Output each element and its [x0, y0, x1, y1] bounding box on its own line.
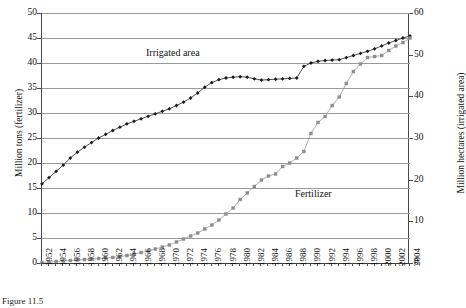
right-axis-tick-label: 10 — [414, 216, 454, 226]
data-point-marker — [274, 172, 277, 175]
data-point-marker — [295, 76, 299, 80]
data-point-marker — [168, 243, 171, 246]
data-point-marker — [153, 112, 157, 116]
data-point-marker — [394, 44, 397, 47]
x-axis-tick-label: 1964 — [129, 248, 138, 266]
data-point-marker — [288, 77, 292, 81]
data-point-marker — [401, 41, 404, 44]
data-point-marker — [224, 212, 227, 215]
data-point-marker — [323, 115, 326, 118]
data-point-marker — [373, 47, 377, 51]
data-point-marker — [366, 49, 370, 53]
x-axis-tick-label: 1994 — [342, 248, 351, 266]
data-point-marker — [338, 95, 341, 98]
data-point-marker — [175, 104, 179, 108]
x-axis-tick-label: 1954 — [59, 248, 68, 266]
data-point-marker — [189, 234, 192, 237]
data-point-marker — [387, 49, 390, 52]
x-axis-tick-label: 1982 — [257, 248, 266, 266]
data-point-marker — [323, 59, 327, 63]
data-point-marker — [387, 41, 391, 45]
data-point-marker — [352, 70, 355, 73]
data-point-marker — [394, 39, 398, 43]
data-point-marker — [267, 78, 271, 82]
data-point-marker — [231, 75, 235, 79]
x-axis-tick-label: 1978 — [229, 248, 238, 266]
left-axis-tick-label: 5 — [0, 233, 37, 243]
x-axis-tick-label: 1968 — [158, 248, 167, 266]
data-point-marker — [111, 129, 115, 133]
left-axis-tick-label: 50 — [0, 8, 37, 18]
data-point-marker — [316, 59, 320, 63]
x-axis-tick-label: 1990 — [313, 248, 322, 266]
x-axis-tick-label: 2002 — [398, 248, 407, 266]
data-point-marker — [217, 218, 220, 221]
data-point-marker — [246, 191, 249, 194]
data-point-marker — [196, 231, 199, 234]
data-point-marker — [309, 61, 313, 65]
data-point-marker — [330, 58, 334, 62]
data-point-marker — [132, 119, 136, 123]
series-label-irrigated-area: Irrigated area — [146, 47, 200, 58]
x-axis-tick-label: 1960 — [101, 248, 110, 266]
left-axis-title: Million tons (fertilizer) — [14, 53, 24, 213]
data-point-marker — [182, 100, 186, 104]
data-point-marker — [146, 114, 150, 118]
figure-caption: Figure 11.5 — [2, 296, 152, 306]
x-axis-tick-label: 1962 — [115, 248, 124, 266]
data-point-marker — [302, 64, 306, 68]
data-point-marker — [288, 161, 291, 164]
x-axis-tick-label: 1966 — [144, 248, 153, 266]
right-axis-tick-label: 50 — [414, 50, 454, 60]
left-axis-tick-label: 0 — [0, 258, 37, 268]
data-point-marker — [359, 62, 362, 65]
data-point-marker — [267, 174, 270, 177]
data-point-marker — [337, 58, 341, 62]
x-axis-tick-label: 1996 — [356, 248, 365, 266]
data-point-marker — [345, 82, 348, 85]
data-point-marker — [182, 237, 185, 240]
x-axis-tick-label: 1976 — [214, 248, 223, 266]
data-point-marker — [203, 227, 206, 230]
data-point-marker — [175, 240, 178, 243]
x-axis-tick-label: 1958 — [87, 248, 96, 266]
data-point-marker — [167, 107, 171, 111]
x-axis-tick-label: 1984 — [271, 248, 280, 266]
data-point-marker — [224, 76, 228, 80]
data-point-marker — [366, 56, 369, 59]
right-axis-tick-label: 40 — [414, 91, 454, 101]
series-label-fertilizer: Fertilizer — [295, 188, 332, 199]
x-axis-tick-label: 1956 — [73, 248, 82, 266]
data-point-marker — [217, 78, 221, 82]
x-axis-tick-label: 1986 — [285, 248, 294, 266]
data-point-marker — [245, 75, 249, 79]
x-axis-tick-label: 1952 — [45, 248, 54, 266]
data-point-marker — [125, 122, 129, 126]
x-axis-tick-label: 1974 — [200, 248, 209, 266]
data-point-marker — [260, 178, 263, 181]
data-point-marker — [408, 36, 411, 39]
data-point-marker — [118, 125, 122, 129]
data-point-marker — [104, 132, 108, 136]
data-point-marker — [302, 150, 305, 153]
data-point-marker — [401, 36, 405, 40]
data-point-marker — [281, 77, 285, 81]
x-axis-tick-label: 1970 — [172, 248, 181, 266]
right-axis-title: Million hectares (irrigated area) — [456, 38, 466, 228]
data-point-marker — [380, 54, 383, 57]
x-axis-tick-label: 1972 — [186, 248, 195, 266]
x-axis-tick-label: 1998 — [370, 248, 379, 266]
data-point-marker — [351, 54, 355, 58]
data-point-marker — [139, 117, 143, 121]
data-point-marker — [238, 75, 242, 79]
data-point-marker — [344, 56, 348, 60]
plot-area — [41, 13, 409, 263]
data-point-marker — [259, 78, 263, 82]
data-point-marker — [316, 121, 319, 124]
right-axis-tick-label: 60 — [414, 8, 454, 18]
data-point-marker — [238, 198, 241, 201]
data-point-marker — [380, 44, 384, 48]
data-point-marker — [160, 109, 164, 113]
x-axis-tick-label: 1980 — [243, 248, 252, 266]
data-point-marker — [253, 185, 256, 188]
